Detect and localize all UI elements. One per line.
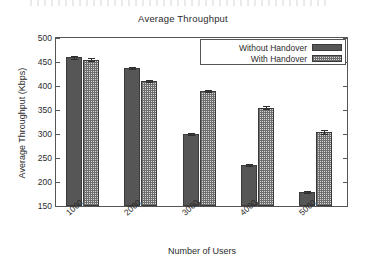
bar — [200, 91, 216, 206]
y-tick-label: 250 — [12, 153, 52, 163]
y-tick-label: 350 — [12, 105, 52, 115]
error-bar-cap — [205, 90, 212, 91]
error-bar-cap — [88, 61, 95, 62]
x-axis-label: Number of Users — [55, 246, 349, 256]
bar — [141, 81, 157, 206]
error-bar-cap — [71, 59, 78, 60]
bar — [316, 132, 332, 206]
legend-label-with-handover: With Handover — [251, 54, 307, 64]
error-bar-cap — [146, 80, 153, 81]
y-tick-label: 300 — [12, 129, 52, 139]
y-tick-label: 200 — [12, 177, 52, 187]
y-tick-mark — [55, 206, 60, 207]
chart-legend: Without Handover With Handover — [200, 39, 346, 65]
error-bar-cap — [263, 106, 270, 107]
error-bar-cap — [246, 164, 253, 165]
bar — [83, 60, 99, 206]
y-tick-label: 400 — [12, 81, 52, 91]
legend-swatch-without-handover — [312, 44, 342, 51]
error-bar-cap — [321, 134, 328, 135]
bar — [258, 108, 274, 206]
scan-artifact — [30, 0, 330, 6]
error-bar-cap — [304, 193, 311, 194]
error-bar-cap — [146, 82, 153, 83]
y-tick-label: 150 — [12, 201, 52, 211]
bar — [124, 68, 140, 206]
legend-entry-without-handover: Without Handover — [201, 42, 347, 53]
legend-label-without-handover: Without Handover — [239, 43, 307, 53]
error-bar-cap — [321, 130, 328, 131]
bar — [66, 57, 82, 206]
error-bar-cap — [129, 67, 136, 68]
y-tick-mark-right — [343, 206, 348, 207]
bar — [183, 134, 199, 206]
error-bar-cap — [263, 109, 270, 110]
error-bar-cap — [304, 191, 311, 192]
y-tick-label: 500 — [12, 33, 52, 43]
legend-entry-with-handover: With Handover — [201, 53, 347, 64]
y-tick-label: 450 — [12, 57, 52, 67]
error-bar-cap — [88, 58, 95, 59]
legend-swatch-with-handover — [312, 55, 342, 62]
error-bar-cap — [188, 135, 195, 136]
average-throughput-bar-chart: Average Throughput Average Throughput (K… — [0, 0, 366, 266]
error-bar-cap — [205, 92, 212, 93]
chart-title: Average Throughput — [0, 13, 366, 24]
error-bar-cap — [246, 166, 253, 167]
error-bar-cap — [71, 56, 78, 57]
error-bar-cap — [188, 133, 195, 134]
error-bar-cap — [129, 69, 136, 70]
